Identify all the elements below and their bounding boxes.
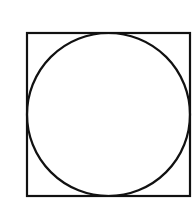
diagram-canvas	[0, 0, 193, 206]
inscribed-circle	[27, 33, 190, 196]
